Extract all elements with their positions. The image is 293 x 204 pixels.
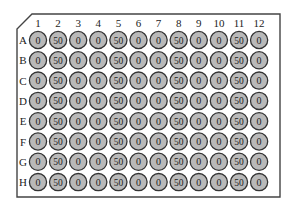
well-value: 0 bbox=[136, 75, 141, 86]
well-value: 50 bbox=[234, 36, 244, 46]
well-H4: 0 bbox=[90, 174, 107, 191]
well-value: 0 bbox=[76, 177, 81, 188]
well-G2: 50 bbox=[50, 153, 67, 170]
well-A4: 0 bbox=[90, 31, 107, 48]
well-value: 0 bbox=[257, 177, 262, 188]
row-label: D bbox=[19, 95, 27, 107]
well-A1: 0 bbox=[29, 31, 46, 48]
well-G7: 0 bbox=[150, 153, 167, 170]
well-E7: 0 bbox=[150, 113, 167, 130]
well-value: 0 bbox=[156, 156, 161, 167]
well-D11: 50 bbox=[230, 92, 247, 109]
well-value: 50 bbox=[114, 137, 124, 147]
well-G5: 50 bbox=[110, 153, 127, 170]
well-value: 0 bbox=[76, 75, 81, 86]
well-C7: 0 bbox=[150, 72, 167, 89]
well-D1: 0 bbox=[29, 92, 46, 109]
well-value: 0 bbox=[96, 136, 101, 147]
well-C12: 0 bbox=[251, 72, 268, 89]
well-H11: 50 bbox=[230, 174, 247, 191]
well-value: 0 bbox=[156, 55, 161, 66]
well-value: 0 bbox=[196, 75, 201, 86]
well-value: 0 bbox=[96, 35, 101, 46]
well-value: 0 bbox=[136, 55, 141, 66]
well-value: 0 bbox=[76, 116, 81, 127]
well-value: 0 bbox=[257, 95, 262, 106]
row-label: F bbox=[20, 136, 26, 148]
well-value: 0 bbox=[257, 136, 262, 147]
well-value: 50 bbox=[174, 56, 184, 66]
well-A5: 50 bbox=[110, 31, 127, 48]
column-label: 4 bbox=[96, 17, 102, 29]
well-D7: 0 bbox=[150, 92, 167, 109]
well-C6: 0 bbox=[130, 72, 147, 89]
well-H7: 0 bbox=[150, 174, 167, 191]
well-E2: 50 bbox=[50, 113, 67, 130]
well-G4: 0 bbox=[90, 153, 107, 170]
well-value: 50 bbox=[174, 36, 184, 46]
well-B11: 50 bbox=[230, 52, 247, 69]
well-F3: 0 bbox=[70, 133, 87, 150]
well-value: 50 bbox=[234, 96, 244, 106]
well-value: 50 bbox=[114, 56, 124, 66]
well-value: 0 bbox=[156, 95, 161, 106]
well-value: 0 bbox=[156, 35, 161, 46]
row-label: C bbox=[19, 75, 26, 87]
well-value: 0 bbox=[76, 35, 81, 46]
well-H1: 0 bbox=[29, 174, 46, 191]
well-value: 0 bbox=[257, 156, 262, 167]
well-value: 0 bbox=[96, 95, 101, 106]
well-value: 0 bbox=[156, 177, 161, 188]
well-value: 0 bbox=[76, 55, 81, 66]
well-value: 50 bbox=[114, 76, 124, 86]
well-H10: 0 bbox=[210, 174, 227, 191]
well-E9: 0 bbox=[190, 113, 207, 130]
well-value: 0 bbox=[156, 116, 161, 127]
well-value: 0 bbox=[96, 75, 101, 86]
well-value: 0 bbox=[216, 95, 221, 106]
well-value: 0 bbox=[216, 156, 221, 167]
well-D2: 50 bbox=[50, 92, 67, 109]
well-F11: 50 bbox=[230, 133, 247, 150]
well-G1: 0 bbox=[29, 153, 46, 170]
well-C2: 50 bbox=[50, 72, 67, 89]
well-G9: 0 bbox=[190, 153, 207, 170]
column-label: 2 bbox=[55, 17, 61, 29]
well-value: 0 bbox=[196, 136, 201, 147]
well-D10: 0 bbox=[210, 92, 227, 109]
well-value: 50 bbox=[114, 178, 124, 188]
well-F10: 0 bbox=[210, 133, 227, 150]
well-value: 50 bbox=[174, 96, 184, 106]
well-value: 50 bbox=[234, 76, 244, 86]
well-C3: 0 bbox=[70, 72, 87, 89]
well-G8: 50 bbox=[170, 153, 187, 170]
well-G3: 0 bbox=[70, 153, 87, 170]
well-D9: 0 bbox=[190, 92, 207, 109]
well-value: 0 bbox=[216, 35, 221, 46]
well-value: 0 bbox=[216, 75, 221, 86]
well-value: 0 bbox=[156, 136, 161, 147]
well-E12: 0 bbox=[251, 113, 268, 130]
well-value: 0 bbox=[36, 116, 41, 127]
well-D12: 0 bbox=[251, 92, 268, 109]
well-B2: 50 bbox=[50, 52, 67, 69]
column-label: 8 bbox=[176, 17, 182, 29]
well-value: 0 bbox=[96, 156, 101, 167]
column-label: 9 bbox=[196, 17, 202, 29]
well-value: 0 bbox=[96, 55, 101, 66]
row-label: G bbox=[19, 156, 27, 168]
well-value: 50 bbox=[174, 157, 184, 167]
well-value: 50 bbox=[174, 178, 184, 188]
well-value: 50 bbox=[174, 76, 184, 86]
row-label: B bbox=[19, 54, 26, 66]
well-B1: 0 bbox=[29, 52, 46, 69]
well-B10: 0 bbox=[210, 52, 227, 69]
well-value: 50 bbox=[174, 137, 184, 147]
well-value: 50 bbox=[234, 117, 244, 127]
well-F6: 0 bbox=[130, 133, 147, 150]
well-A12: 0 bbox=[251, 31, 268, 48]
well-value: 0 bbox=[136, 156, 141, 167]
well-G6: 0 bbox=[130, 153, 147, 170]
well-value: 0 bbox=[76, 156, 81, 167]
well-F8: 50 bbox=[170, 133, 187, 150]
